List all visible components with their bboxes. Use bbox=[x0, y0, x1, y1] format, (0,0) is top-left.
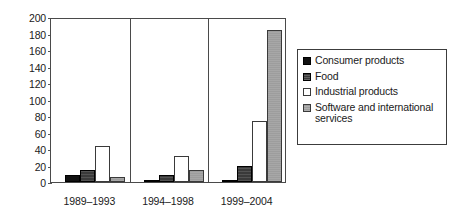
legend-item[interactable]: Software and international services bbox=[303, 102, 442, 125]
y-axis-tick-label: 20 bbox=[12, 162, 46, 172]
bar bbox=[222, 180, 237, 182]
plot-area bbox=[50, 18, 286, 183]
legend-swatch-industrial bbox=[303, 88, 311, 96]
y-axis-tick-label: 0 bbox=[12, 178, 46, 188]
y-axis-tick-label: 160 bbox=[12, 46, 46, 56]
bar-group bbox=[130, 19, 209, 182]
bar bbox=[189, 170, 204, 182]
legend-item-label: Food bbox=[315, 71, 338, 83]
y-axis: 200180160140120100806040200 bbox=[6, 0, 46, 219]
bar bbox=[267, 30, 282, 182]
bar bbox=[65, 175, 80, 182]
x-axis-tick-label: 1994–1998 bbox=[129, 195, 208, 207]
y-axis-tick-label: 80 bbox=[12, 112, 46, 122]
legend-swatch-software bbox=[303, 104, 311, 112]
legend-swatch-food bbox=[303, 73, 311, 81]
bar-chart: 200180160140120100806040200 1989–1993199… bbox=[0, 0, 453, 219]
legend-swatch-consumer bbox=[303, 57, 311, 65]
y-axis-tick-label: 40 bbox=[12, 145, 46, 155]
y-axis-tick-label: 100 bbox=[12, 96, 46, 106]
bar bbox=[174, 156, 189, 182]
bar bbox=[237, 166, 252, 183]
y-axis-tick-label: 120 bbox=[12, 79, 46, 89]
bar bbox=[110, 177, 125, 182]
y-axis-tick-label: 180 bbox=[12, 30, 46, 40]
bar bbox=[252, 121, 267, 182]
legend-item-label: Software and international services bbox=[315, 102, 442, 125]
bar bbox=[144, 180, 159, 183]
x-axis-tick-label: 1989–1993 bbox=[50, 195, 129, 207]
y-axis-tick-label: 140 bbox=[12, 63, 46, 73]
legend-item[interactable]: Industrial products bbox=[303, 86, 442, 98]
legend: Consumer productsFoodIndustrial products… bbox=[297, 49, 447, 145]
legend-item[interactable]: Food bbox=[303, 71, 442, 83]
legend-item-label: Industrial products bbox=[315, 86, 398, 98]
y-axis-tick-label: 200 bbox=[12, 13, 46, 23]
x-axis: 1989–19931994–19981999–2004 bbox=[50, 186, 286, 210]
x-axis-tick-label: 1999–2004 bbox=[207, 195, 286, 207]
legend-item[interactable]: Consumer products bbox=[303, 55, 442, 67]
y-axis-tick-mark bbox=[48, 183, 52, 184]
legend-item-label: Consumer products bbox=[315, 55, 404, 67]
bar bbox=[80, 170, 95, 182]
bar-group bbox=[208, 19, 287, 182]
bar bbox=[95, 146, 110, 182]
y-axis-tick-label: 60 bbox=[12, 129, 46, 139]
bar-group bbox=[51, 19, 130, 182]
bar bbox=[159, 175, 174, 182]
